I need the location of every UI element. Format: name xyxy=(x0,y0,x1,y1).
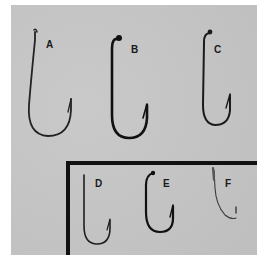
hook-b xyxy=(112,35,147,138)
label-d: D xyxy=(95,179,102,189)
label-b: B xyxy=(131,45,138,55)
label-f: F xyxy=(225,179,231,189)
label-c: C xyxy=(214,45,221,55)
label-a: A xyxy=(46,40,53,50)
label-e: E xyxy=(163,179,170,189)
frame xyxy=(66,161,257,255)
hooks-illustration xyxy=(0,0,265,263)
hook-f xyxy=(213,168,236,219)
